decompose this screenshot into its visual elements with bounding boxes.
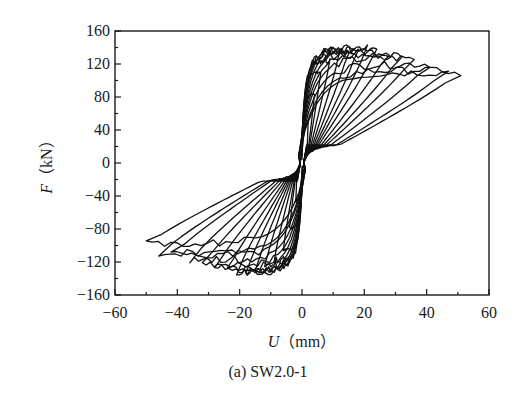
hysteresis-loop bbox=[146, 71, 461, 246]
hysteresis-loop bbox=[227, 48, 377, 273]
hysteresis-figure: −60−40−200204060 −160−120−80−40040801201… bbox=[0, 0, 524, 415]
hysteresis-loop bbox=[255, 48, 348, 272]
y-axis-title: F（kN） bbox=[38, 132, 55, 194]
plot-frame bbox=[115, 31, 489, 295]
y-tick-label: 80 bbox=[94, 88, 110, 105]
y-tick-label: −40 bbox=[85, 187, 110, 204]
x-tick-label: 20 bbox=[356, 304, 372, 321]
x-tick-label: −40 bbox=[165, 304, 190, 321]
y-tick-label: −160 bbox=[77, 286, 110, 303]
axis-ticks bbox=[115, 31, 489, 295]
y-tick-label: 0 bbox=[102, 154, 110, 171]
x-tick-labels: −60−40−200204060 bbox=[102, 304, 497, 321]
figure-caption: (a) SW2.0-1 bbox=[228, 363, 307, 381]
y-tick-label: −80 bbox=[85, 220, 110, 237]
x-axis-title: U（mm） bbox=[268, 333, 336, 350]
y-tick-label: 120 bbox=[86, 55, 110, 72]
y-tick-label: 40 bbox=[94, 121, 110, 138]
y-tick-label: −120 bbox=[77, 253, 110, 270]
x-tick-label: −20 bbox=[227, 304, 252, 321]
y-tick-label: 160 bbox=[86, 22, 110, 39]
x-tick-label: 0 bbox=[298, 304, 306, 321]
hysteresis-loops bbox=[146, 45, 461, 275]
x-tick-label: 40 bbox=[419, 304, 435, 321]
x-tick-label: −60 bbox=[102, 304, 127, 321]
hysteresis-loop bbox=[283, 71, 320, 250]
x-tick-label: 60 bbox=[481, 304, 497, 321]
y-tick-labels: −160−120−80−4004080120160 bbox=[77, 22, 110, 303]
hysteresis-chart: −60−40−200204060 −160−120−80−40040801201… bbox=[0, 0, 524, 415]
